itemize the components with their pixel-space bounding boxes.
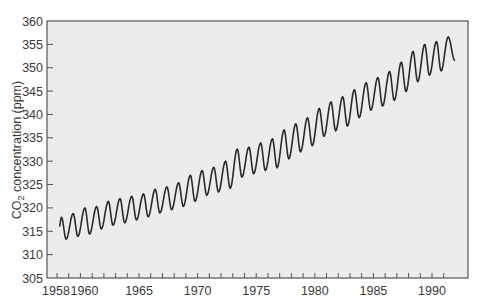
x-tick-label: 1975 [242, 284, 270, 298]
x-tick-label: 1960 [71, 284, 99, 298]
y-tick-label: 360 [22, 15, 43, 29]
x-tick-label: 1970 [184, 284, 212, 298]
co2-line-chart: 305310315320325330335340345350355360 195… [0, 0, 480, 306]
x-tick-label: 1990 [418, 284, 446, 298]
x-tick-label: 1985 [360, 284, 388, 298]
y-tick-label: 330 [22, 155, 43, 169]
y-tick-label: 355 [22, 38, 43, 52]
x-tick-label: 1980 [301, 284, 329, 298]
y-tick-label: 335 [22, 131, 43, 145]
y-tick-label: 340 [22, 108, 43, 122]
x-tick-label: 1958 [42, 284, 70, 298]
y-tick-label: 320 [22, 201, 43, 215]
plot-area [47, 21, 468, 278]
y-tick-label: 310 [22, 248, 43, 262]
y-tick-label: 325 [22, 178, 43, 192]
y-tick-label: 315 [22, 225, 43, 239]
y-tick-label: 305 [22, 272, 43, 286]
x-tick-label: 1965 [125, 284, 153, 298]
y-axis-title: CO2 concentration (ppm) [10, 81, 26, 219]
y-tick-label: 345 [22, 85, 43, 99]
y-tick-label: 350 [22, 61, 43, 75]
